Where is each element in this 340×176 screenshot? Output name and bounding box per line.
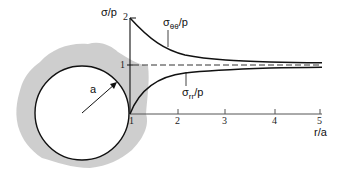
- x-tick-label-2: 2: [175, 116, 180, 126]
- x-tick-label-5: 5: [317, 116, 322, 126]
- hoop-stress-label: σθθ/p: [163, 17, 188, 28]
- y-tick-label-1: 1: [120, 60, 125, 70]
- radial-stress-curve: [130, 67, 322, 114]
- radial-stress-label: σrr/p: [182, 87, 203, 98]
- x-tick-label-3: 3: [222, 116, 227, 126]
- x-tick-label-1: 1: [129, 116, 134, 126]
- x-axis-label: r/a: [314, 127, 327, 138]
- hoop-stress-curve: [130, 18, 322, 63]
- y-tick-label-2: 2: [123, 12, 128, 22]
- radius-label: a: [90, 84, 96, 95]
- x-tick-label-4: 4: [272, 116, 277, 126]
- y-axis-label: σ/p: [101, 7, 117, 18]
